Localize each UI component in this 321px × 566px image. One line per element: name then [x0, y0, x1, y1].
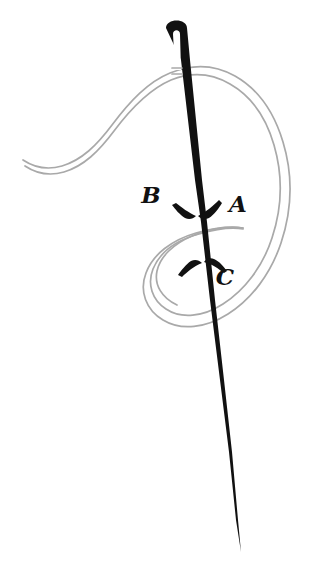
stitch-illustration: B A C — [0, 0, 321, 566]
stitch-diagram: B A C — [0, 0, 321, 566]
label-c: C — [216, 263, 235, 290]
label-a: A — [227, 190, 247, 217]
label-b: B — [140, 181, 160, 208]
